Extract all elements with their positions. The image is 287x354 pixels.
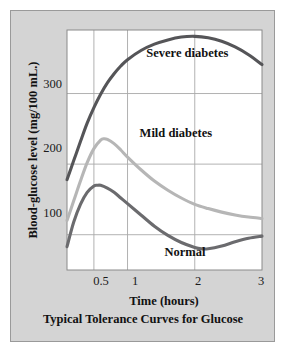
x-tick-label-3: 3	[258, 274, 264, 288]
y-axis-title: Blood-glucose level (mg/100 mL.)	[26, 61, 40, 238]
figure-caption: Typical Tolerance Curves for Glucose	[43, 312, 244, 326]
annotation-normal: Normal	[165, 245, 206, 259]
x-axis-title: Time (hours)	[129, 294, 199, 308]
y-tick-label-300: 300	[43, 77, 62, 91]
x-tick-label-0.5: 0.5	[93, 274, 109, 288]
y-tick-label-100: 100	[43, 206, 62, 220]
x-tick-label-2: 2	[195, 274, 201, 288]
y-tick-label-200: 200	[43, 141, 62, 155]
annotation-severe-diabetes: Severe diabetes	[146, 46, 228, 60]
annotation-mild-diabetes: Mild diabetes	[140, 126, 213, 140]
x-tick-label-1: 1	[132, 274, 138, 288]
figure-container: 300 200 100 0.5 1 2 3 Severe diabetes Mi…	[0, 0, 287, 354]
glucose-tolerance-chart: 300 200 100 0.5 1 2 3 Severe diabetes Mi…	[0, 0, 287, 354]
